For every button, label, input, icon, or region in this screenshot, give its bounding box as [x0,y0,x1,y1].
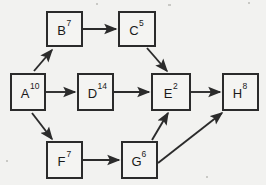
paper-speck [248,2,250,4]
node-letter-e: E [164,86,173,101]
node-weight-f: 7 [67,149,72,159]
paper-speck [6,160,8,162]
node-e[interactable]: E2 [152,74,190,110]
node-weight-d: 14 [98,81,108,91]
node-weight-g: 6 [142,149,147,159]
node-c[interactable]: C5 [119,12,155,46]
paper-speck [206,176,208,178]
node-weight-h: 8 [243,81,248,91]
node-a[interactable]: A10 [11,74,45,110]
node-b[interactable]: B7 [47,12,82,46]
node-letter-a: A [21,86,30,101]
edge-c-to-e [147,48,167,71]
nodes-layer: A10B7C5D14E2F7G6H8 [11,12,258,178]
node-g[interactable]: G6 [122,142,157,178]
node-weight-e: 2 [173,81,178,91]
edge-a-to-f [32,113,52,139]
node-letter-g: G [131,154,141,169]
node-h[interactable]: H8 [223,74,258,110]
paper-speck [96,3,98,5]
graph-svg: A10B7C5D14E2F7G6H8 [0,0,266,185]
node-weight-a: 10 [30,81,40,91]
edge-a-to-b [34,50,52,71]
node-letter-d: D [88,86,97,101]
node-letter-b: B [57,23,66,38]
node-letter-c: C [129,23,138,38]
node-weight-c: 5 [139,18,144,28]
edge-g-to-e [152,113,168,140]
node-weight-b: 7 [67,18,72,28]
node-letter-h: H [233,86,242,101]
paper-speck [168,4,171,6]
node-f[interactable]: F7 [47,142,82,178]
node-d[interactable]: D14 [78,74,113,110]
diagram-canvas: A10B7C5D14E2F7G6H8 [0,0,266,185]
node-letter-f: F [58,154,66,169]
edge-g-to-h [158,113,222,163]
